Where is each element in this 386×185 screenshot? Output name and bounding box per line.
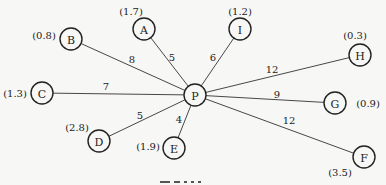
node-value-label: (3.5) (328, 167, 352, 178)
node-label: A (139, 24, 149, 37)
node-label: H (355, 50, 365, 63)
node-label: D (95, 136, 104, 149)
node-h: H (349, 44, 371, 66)
edge-weight-label: 12 (283, 115, 296, 126)
figure-caption-truncated (160, 181, 220, 185)
edge-weight-label: 5 (137, 110, 143, 121)
node-label: P (191, 90, 199, 103)
node-value-label: (0.8) (32, 30, 56, 41)
node-label: B (67, 34, 75, 47)
node-i: I (229, 18, 251, 40)
edge-weight-label: 12 (266, 64, 279, 75)
network-diagram: 56875412912 PAIBCDEHGF (1.7)(1.2)(0.8)(1… (0, 0, 386, 185)
node-d: D (88, 130, 110, 152)
edge-p-b (71, 39, 195, 95)
node-value-label: (0.9) (356, 98, 380, 109)
edge-weight-label: 8 (129, 54, 135, 65)
edge-p-i (195, 29, 240, 95)
node-label: C (38, 88, 46, 101)
node-c: C (31, 82, 53, 104)
node-value-label: (1.2) (228, 6, 252, 17)
edge-p-g (195, 95, 335, 103)
node-label: I (238, 24, 242, 37)
edge-weight-label: 6 (210, 52, 216, 63)
node-b: B (60, 28, 82, 50)
nodes-layer: PAIBCDEHGF (31, 18, 375, 168)
node-value-label: (1.9) (136, 141, 160, 152)
node-value-label: (1.3) (3, 88, 27, 99)
node-e: E (163, 137, 185, 159)
node-label: E (170, 143, 178, 156)
graph-canvas: 56875412912 PAIBCDEHGF (1.7)(1.2)(0.8)(1… (0, 0, 386, 185)
edge-p-c (42, 93, 195, 95)
edge-weight-label: 9 (274, 89, 280, 100)
node-p: P (184, 84, 206, 106)
node-value-label: (2.8) (65, 122, 89, 133)
node-label: F (360, 152, 368, 165)
node-f: F (353, 146, 375, 168)
node-value-label: (0.3) (343, 30, 367, 41)
node-label: G (331, 98, 340, 111)
node-g: G (324, 92, 346, 114)
edge-weight-label: 5 (169, 52, 175, 63)
node-a: A (133, 18, 155, 40)
node-value-label: (1.7) (119, 6, 143, 17)
edge-weight-label: 4 (176, 114, 182, 125)
edge-weight-label: 7 (103, 81, 109, 92)
